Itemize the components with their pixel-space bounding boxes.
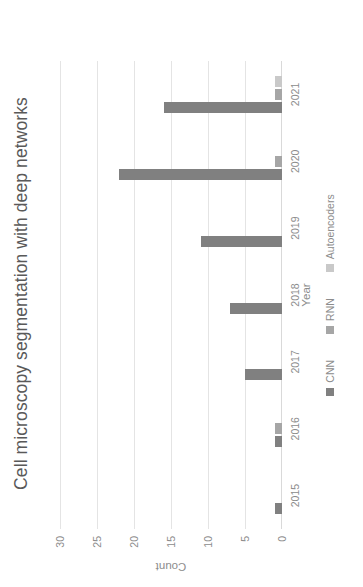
bar-chart-figure: Cell microscopy segmentation with deep n…: [0, 0, 363, 587]
bar-group: 2016: [60, 395, 282, 462]
y-axis-tick-label: 25: [91, 536, 103, 548]
bar[interactable]: [230, 303, 282, 314]
bar-group: 2020: [60, 128, 282, 195]
y-axis-title: Count: [60, 559, 282, 575]
legend-swatch-icon: [326, 388, 334, 396]
bar[interactable]: [201, 236, 282, 247]
legend-item[interactable]: CNN: [324, 360, 336, 396]
plot-area: 0510152025302015201620172018201920202021: [60, 61, 282, 529]
bar-group: 2017: [60, 328, 282, 395]
y-axis-tick-label: 20: [128, 536, 140, 548]
bar-group-bars: [60, 262, 282, 329]
chart-title: Cell microscopy segmentation with deep n…: [0, 0, 42, 587]
bar[interactable]: [275, 76, 282, 87]
bar[interactable]: [275, 156, 282, 167]
bar[interactable]: [275, 503, 282, 514]
legend-swatch-icon: [326, 264, 334, 272]
bar[interactable]: [275, 436, 282, 447]
legend-item[interactable]: Autoencoders: [324, 194, 336, 272]
bar-group: 2021: [60, 61, 282, 128]
rotated-figure-wrapper: Cell microscopy segmentation with deep n…: [0, 0, 363, 587]
bar-group-bars: [60, 195, 282, 262]
bar-group-bars: [60, 395, 282, 462]
legend-item-label: RNN: [324, 298, 336, 321]
y-axis-tick-label: 30: [54, 536, 66, 548]
y-axis-tick-label: 0: [276, 536, 288, 542]
y-axis-tick-label: 10: [202, 536, 214, 548]
legend-swatch-icon: [326, 326, 334, 334]
legend-item[interactable]: RNN: [324, 298, 336, 334]
bar-group-bars: [60, 328, 282, 395]
legend-item-label: Autoencoders: [324, 194, 336, 259]
legend-item-label: CNN: [324, 360, 336, 383]
bar[interactable]: [275, 423, 282, 434]
bar-group: 2015: [60, 462, 282, 529]
bar[interactable]: [119, 169, 282, 180]
y-axis-tick-label: 5: [239, 536, 251, 542]
y-axis-tick-label: 15: [165, 536, 177, 548]
bar-group-bars: [60, 128, 282, 195]
bar-group: 2019: [60, 195, 282, 262]
bar-group-bars: [60, 61, 282, 128]
bar[interactable]: [164, 102, 282, 113]
bar[interactable]: [245, 369, 282, 380]
bar[interactable]: [275, 89, 282, 100]
bar-group: 2018: [60, 262, 282, 329]
bar-group-bars: [60, 462, 282, 529]
chart-legend: CNNRNNAutoencoders: [324, 61, 336, 529]
x-axis-title: Year: [300, 61, 312, 529]
y-axis-title-text: Count: [156, 561, 187, 573]
